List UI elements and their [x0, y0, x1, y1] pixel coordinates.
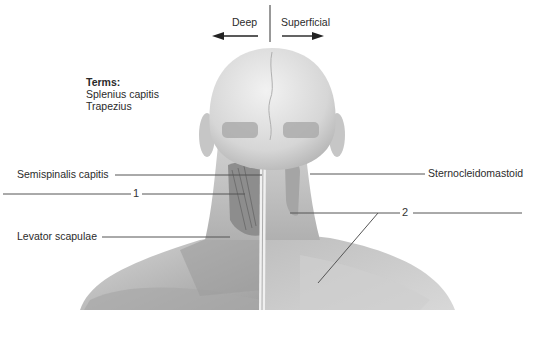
arrow-left-icon [212, 32, 224, 40]
terms-title: Terms: [86, 76, 159, 88]
terms-box: Terms: Splenius capitis Trapezius [86, 76, 159, 112]
term-splenius-capitis: Splenius capitis [86, 88, 159, 100]
label-number-1: 1 [131, 187, 141, 199]
arrow-right-icon [312, 32, 324, 40]
skull [209, 48, 335, 170]
label-semispinalis-capitis: Semispinalis capitis [17, 168, 109, 180]
term-trapezius: Trapezius [86, 100, 159, 112]
label-levator-scapulae: Levator scapulae [17, 230, 97, 242]
label-number-2: 2 [400, 206, 410, 218]
superficial-label: Superficial [281, 16, 330, 28]
label-sternocleidomastoid: Sternocleidomastoid [428, 167, 523, 179]
deep-label: Deep [232, 16, 257, 28]
